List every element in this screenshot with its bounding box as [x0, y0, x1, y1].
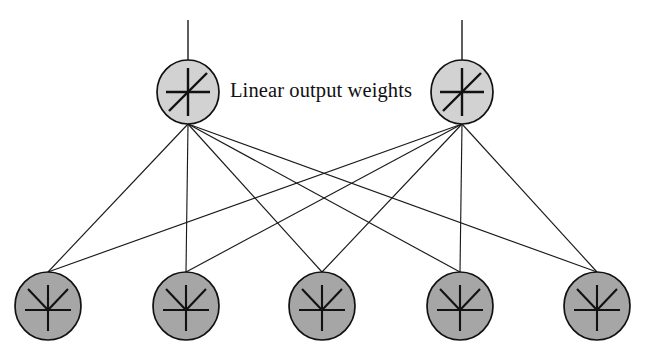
connection-edge: [186, 124, 462, 272]
connection-edge: [462, 124, 597, 272]
hidden-unit-node[interactable]: [564, 272, 630, 340]
connection-edge: [322, 124, 462, 272]
hidden-unit-node[interactable]: [289, 272, 355, 340]
hidden-unit-node[interactable]: [15, 272, 81, 340]
output-unit-node[interactable]: [157, 60, 219, 124]
linear-output-weights-label: Linear output weights: [230, 79, 412, 102]
connection-edge: [186, 124, 188, 272]
connection-edges-group: [48, 124, 597, 272]
output-unit-node[interactable]: [431, 60, 493, 124]
hidden-unit-node[interactable]: [153, 272, 219, 340]
connection-edge: [48, 124, 188, 272]
hidden-unit-node[interactable]: [427, 272, 493, 340]
network-diagram-canvas: Linear output weights: [0, 0, 648, 353]
hidden-layer-group: [15, 272, 630, 340]
connection-edge: [460, 124, 462, 272]
network-diagram-svg: Linear output weights: [0, 0, 648, 353]
connection-edge: [48, 124, 462, 272]
output-stems-group: [188, 20, 462, 60]
